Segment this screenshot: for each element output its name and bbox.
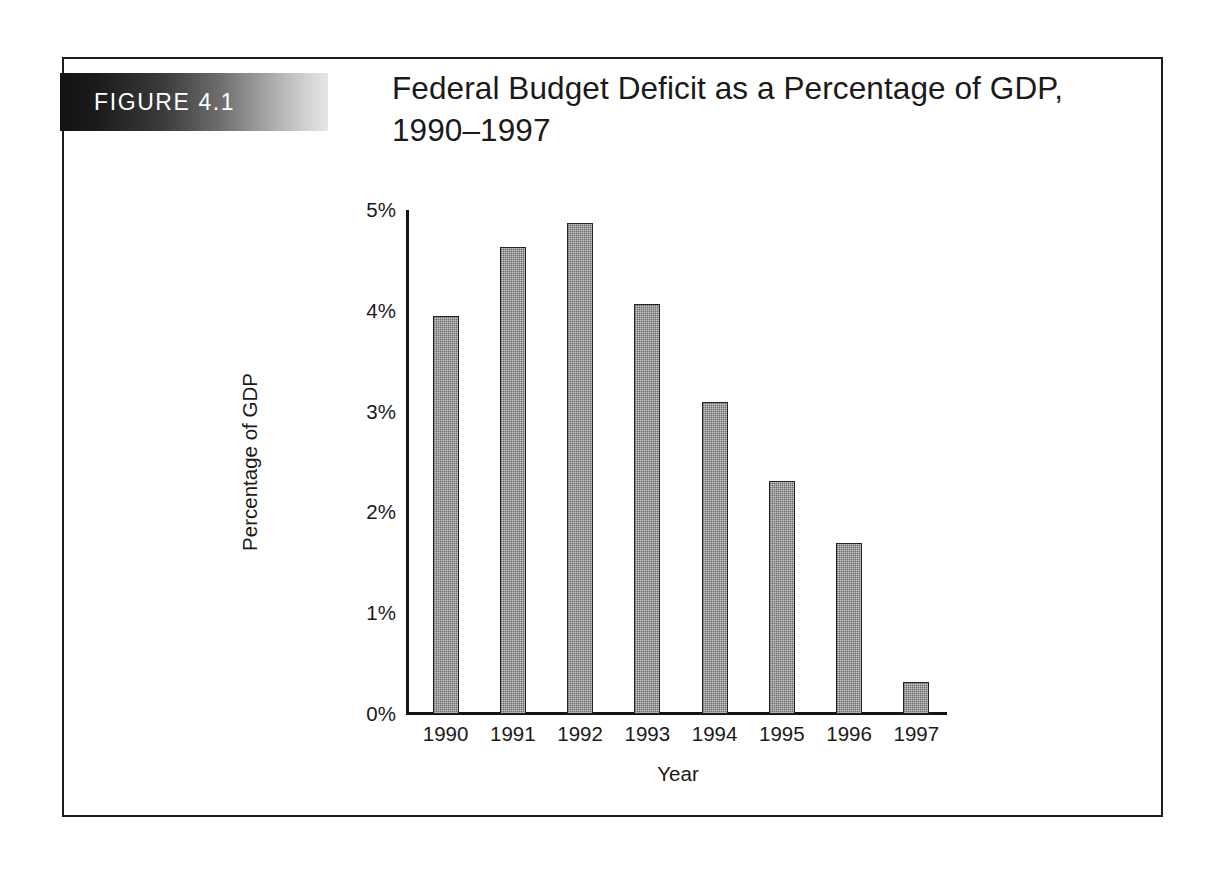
y-axis-tick-label: 1% <box>344 601 396 625</box>
bar <box>567 223 593 714</box>
y-axis-tick-label: 3% <box>344 400 396 424</box>
bar <box>702 402 728 714</box>
bar <box>433 316 459 714</box>
figure-number-label: FIGURE 4.1 <box>60 89 235 116</box>
x-axis-tick-label: 1997 <box>880 722 952 746</box>
x-axis-tick-label: 1994 <box>679 722 751 746</box>
x-axis-tick-label: 1993 <box>611 722 683 746</box>
y-axis-tick-labels: 0%1%2%3%4%5% <box>346 210 396 714</box>
figure-title: Federal Budget Deficit as a Percentage o… <box>392 67 1092 151</box>
x-axis-tick-label: 1990 <box>410 722 482 746</box>
chart-plot-area: Percentage of GDP 0%1%2%3%4%5% 199019911… <box>346 210 966 770</box>
bar <box>903 682 929 714</box>
bar-series <box>409 210 947 714</box>
y-axis-tick-label: 4% <box>344 299 396 323</box>
bar <box>634 304 660 714</box>
figure-number-badge: FIGURE 4.1 <box>60 73 328 131</box>
bar <box>769 481 795 714</box>
bar <box>500 247 526 714</box>
figure-header: FIGURE 4.1 Federal Budget Deficit as a P… <box>64 73 1161 145</box>
x-axis-tick-labels: 19901991199219931994199519961997 <box>409 722 947 752</box>
y-axis-tick-label: 2% <box>344 500 396 524</box>
figure-frame: FIGURE 4.1 Federal Budget Deficit as a P… <box>62 57 1163 817</box>
bar <box>836 543 862 714</box>
x-axis-tick-label: 1996 <box>813 722 885 746</box>
y-axis-title: Percentage of GDP <box>238 373 262 551</box>
x-axis-tick-label: 1995 <box>746 722 818 746</box>
x-axis-tick-label: 1991 <box>477 722 549 746</box>
x-axis-title: Year <box>409 762 947 786</box>
x-axis-tick-label: 1992 <box>544 722 616 746</box>
y-axis-tick-label: 5% <box>344 198 396 222</box>
y-axis-tick-label: 0% <box>344 702 396 726</box>
